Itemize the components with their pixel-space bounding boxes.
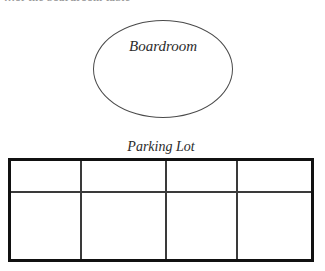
grid-cell <box>80 161 165 191</box>
table-row <box>11 161 311 193</box>
diagram-canvas: …of the boardroom table Boardroom Parkin… <box>0 0 325 271</box>
cropped-header-strip: …of the boardroom table <box>0 0 325 5</box>
grid-cell <box>236 161 311 191</box>
grid-cell <box>11 193 80 259</box>
grid-cell <box>80 193 165 259</box>
cropped-header-text: …of the boardroom table <box>4 0 130 3</box>
boardroom-ellipse <box>93 20 233 118</box>
grid-cell <box>165 161 236 191</box>
table-row <box>11 193 311 259</box>
parking-lot-caption: Parking Lot <box>8 139 314 155</box>
boardroom-label: Boardroom <box>93 38 233 55</box>
parking-lot-grid-inner <box>11 161 311 259</box>
grid-cell <box>236 193 311 259</box>
grid-cell <box>165 193 236 259</box>
parking-lot-grid <box>8 158 314 262</box>
grid-cell <box>11 161 80 191</box>
